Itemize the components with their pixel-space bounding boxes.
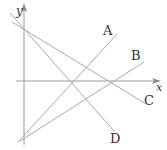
line-b bbox=[20, 62, 144, 141]
y-axis-label: y bbox=[15, 4, 23, 18]
x-axis-label: x bbox=[156, 81, 163, 94]
x-axis bbox=[16, 78, 161, 84]
y-axis bbox=[21, 3, 27, 145]
line-d-label: D bbox=[110, 131, 120, 146]
line-c-label: C bbox=[144, 93, 154, 108]
line-b-label: B bbox=[131, 48, 141, 63]
line-a bbox=[18, 34, 117, 142]
line-a-label: A bbox=[102, 23, 113, 38]
line-d bbox=[10, 13, 114, 131]
coordinate-diagram: y x A B C D bbox=[0, 0, 167, 150]
